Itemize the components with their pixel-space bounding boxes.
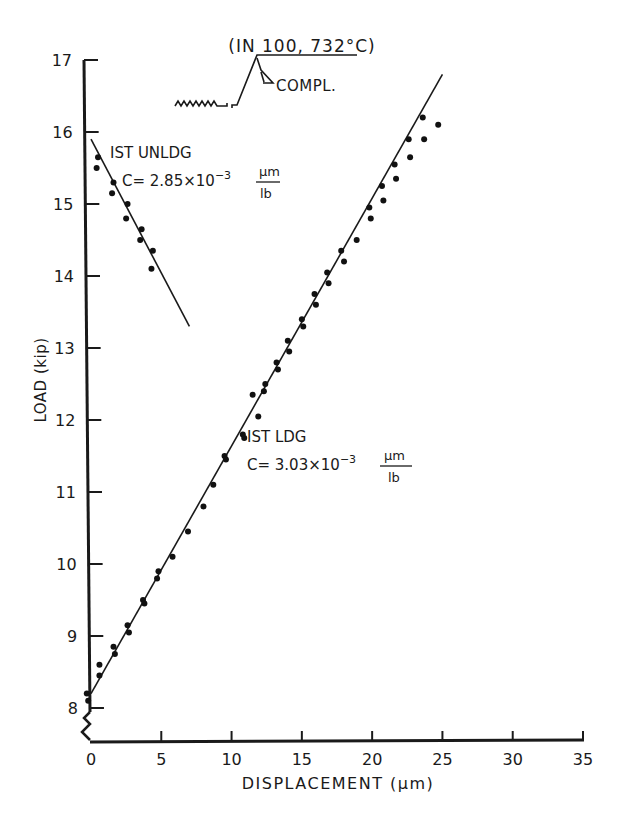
data-point	[275, 367, 281, 373]
x-tick-label: 20	[362, 750, 382, 769]
data-point	[126, 629, 132, 635]
unloading-compliance: C= 2.85×10−3	[122, 169, 231, 190]
x-tick-label: 25	[432, 750, 452, 769]
data-point	[368, 215, 374, 221]
data-point	[96, 673, 102, 679]
x-tick-label: 0	[86, 750, 96, 769]
data-point	[125, 201, 131, 207]
data-point	[84, 691, 90, 697]
data-point	[96, 662, 102, 668]
data-point	[354, 237, 360, 243]
data-point	[261, 388, 267, 394]
y-tick-label: 16	[52, 123, 72, 142]
data-point	[406, 136, 412, 142]
loading-compliance: C= 3.03×10−3	[247, 453, 356, 474]
data-point	[380, 197, 386, 203]
data-point	[313, 302, 319, 308]
y-tick-label: 15	[53, 195, 73, 214]
x-tick-label: 30	[503, 750, 523, 769]
data-point	[137, 237, 143, 243]
data-point	[150, 248, 156, 254]
series-unloading	[91, 139, 189, 326]
data-point	[300, 323, 306, 329]
data-point	[223, 457, 229, 463]
data-point	[95, 154, 101, 160]
y-axis	[84, 60, 90, 712]
data-point	[185, 529, 191, 535]
inset-label: COMPL.	[276, 77, 336, 95]
y-tick-label: 12	[55, 411, 75, 430]
data-point	[155, 568, 161, 574]
y-tick-label: 9	[67, 627, 77, 646]
x-ticks: 05101520253035	[86, 731, 593, 769]
data-point	[200, 503, 206, 509]
data-point	[94, 165, 100, 171]
data-point	[123, 215, 129, 221]
unit-numerator: μm	[259, 164, 280, 179]
data-point	[109, 190, 115, 196]
unloading-label: IST UNLDG	[110, 144, 192, 162]
unloading-annotation: IST UNLDG C= 2.85×10−3 μm lb	[110, 144, 280, 201]
data-point	[421, 136, 427, 142]
data-point	[312, 291, 318, 297]
data-point	[379, 183, 385, 189]
data-point	[141, 601, 147, 607]
x-tick-label: 35	[573, 750, 593, 769]
loading-label: IST LDG	[247, 428, 306, 446]
data-point	[341, 259, 347, 265]
x-axis	[90, 740, 584, 742]
data-point	[139, 226, 145, 232]
unit-numerator: μm	[384, 448, 405, 463]
y-tick-label: 10	[56, 555, 76, 574]
data-point	[85, 698, 91, 704]
axis-break-icon	[82, 712, 90, 740]
data-point	[393, 176, 399, 182]
loading-annotation: IST LDG C= 3.03×10−3 μm lb	[247, 428, 412, 485]
axes	[82, 60, 584, 742]
data-point	[262, 381, 268, 387]
data-point	[210, 482, 216, 488]
data-point	[286, 349, 292, 355]
data-point	[338, 248, 344, 254]
data-point	[326, 280, 332, 286]
data-point	[392, 161, 398, 167]
fit-line	[91, 139, 189, 326]
data-point	[148, 266, 154, 272]
y-tick-label: 8	[68, 699, 78, 718]
x-tick-label: 10	[221, 750, 241, 769]
data-point	[170, 554, 176, 560]
x-tick-label: 15	[292, 750, 312, 769]
y-tick-label: 11	[56, 483, 76, 502]
load-displacement-chart: (IN 100, 732°C) COMPL. 89101112131415161…	[0, 0, 622, 824]
data-point	[435, 122, 441, 128]
data-point	[250, 392, 256, 398]
data-point	[112, 651, 118, 657]
data-point	[420, 115, 426, 121]
data-point	[407, 154, 413, 160]
unit-denominator: lb	[260, 186, 272, 201]
data-point	[125, 622, 131, 628]
data-point	[110, 644, 116, 650]
data-point	[154, 575, 160, 581]
data-point	[285, 338, 291, 344]
x-tick-label: 5	[156, 750, 166, 769]
data-point	[255, 413, 261, 419]
y-ticks: 891011121314151617	[52, 51, 104, 718]
data-point	[110, 179, 116, 185]
data-point	[324, 269, 330, 275]
chart-title: (IN 100, 732°C)	[228, 36, 375, 56]
data-point	[274, 359, 280, 365]
y-tick-label: 13	[54, 339, 74, 358]
data-point	[299, 316, 305, 322]
x-axis-label: DISPLACEMENT (μm)	[242, 774, 435, 793]
unit-denominator: lb	[388, 470, 400, 485]
y-axis-label: LOAD (kip)	[32, 337, 50, 422]
data-point	[366, 205, 372, 211]
y-tick-label: 17	[52, 51, 72, 70]
y-tick-label: 14	[54, 267, 74, 286]
